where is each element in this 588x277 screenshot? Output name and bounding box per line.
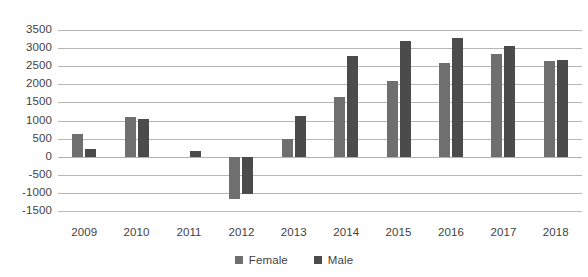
x-tick-label: 2013: [281, 226, 307, 238]
chart-legend: FemaleMale: [0, 250, 588, 270]
bar-female-2016: [439, 63, 450, 156]
bars-layer: [58, 0, 582, 220]
bar-male-2016: [452, 38, 463, 157]
x-tick-label: 2010: [124, 226, 150, 238]
bar-male-2013: [295, 116, 306, 157]
bar-female-2014: [334, 97, 345, 156]
x-tick-label: 2009: [71, 226, 97, 238]
bar-female-2013: [282, 139, 293, 156]
bar-chart: 3500300025002000150010005000-500-1000-15…: [0, 0, 588, 277]
bar-male-2011: [190, 151, 201, 157]
x-tick-label: 2011: [176, 226, 201, 238]
y-axis: 3500300025002000150010005000-500-1000-15…: [0, 0, 52, 220]
y-tick-label: -1000: [0, 187, 52, 199]
x-axis: 2009201020112012201320142015201620172018: [58, 222, 582, 244]
bar-male-2018: [557, 60, 568, 157]
y-tick-label: 2500: [0, 60, 52, 72]
y-tick-label: 1000: [0, 115, 52, 127]
y-tick-label: -1500: [0, 205, 52, 217]
y-tick-label: 2000: [0, 79, 52, 91]
y-tick-label: 0: [0, 151, 52, 163]
x-tick-label: 2015: [386, 226, 412, 238]
bar-female-2018: [544, 61, 555, 157]
bar-male-2009: [85, 149, 96, 156]
x-tick-label: 2017: [490, 226, 516, 238]
x-tick-label: 2012: [228, 226, 254, 238]
legend-swatch-icon: [314, 256, 322, 264]
x-tick-label: 2018: [543, 226, 569, 238]
bar-male-2017: [504, 46, 515, 156]
y-tick-label: 500: [0, 133, 52, 145]
x-tick-label: 2014: [333, 226, 359, 238]
bar-female-2015: [387, 81, 398, 156]
y-tick-label: 3500: [0, 24, 52, 36]
legend-label: Male: [328, 254, 353, 266]
bar-male-2012: [242, 157, 253, 195]
bar-male-2014: [347, 56, 358, 157]
legend-item-male[interactable]: Male: [314, 254, 353, 266]
y-tick-label: 3000: [0, 42, 52, 54]
x-tick-label: 2016: [438, 226, 464, 238]
bar-male-2010: [138, 119, 149, 157]
bar-female-2017: [491, 54, 502, 157]
bar-female-2010: [125, 117, 136, 157]
bar-male-2015: [400, 41, 411, 157]
y-tick-label: -500: [0, 169, 52, 181]
plot-area: 3500300025002000150010005000-500-1000-15…: [0, 0, 588, 220]
bar-female-2012: [229, 157, 240, 199]
legend-item-female[interactable]: Female: [235, 254, 288, 266]
bar-female-2009: [72, 134, 83, 156]
legend-label: Female: [249, 254, 288, 266]
y-tick-label: 1500: [0, 97, 52, 109]
legend-swatch-icon: [235, 256, 243, 264]
